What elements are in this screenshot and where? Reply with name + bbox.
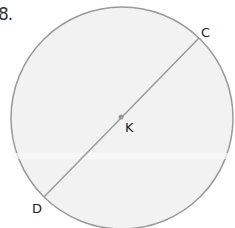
scan-band	[12, 153, 232, 159]
label-k: K	[125, 120, 134, 135]
label-d: D	[32, 201, 42, 216]
label-c: C	[201, 25, 210, 40]
circle-diagram: C K D	[0, 0, 235, 228]
center-point-k	[119, 115, 124, 120]
